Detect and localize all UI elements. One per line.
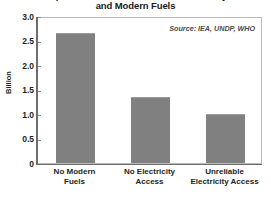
y-axis-tick-mark — [38, 140, 41, 141]
bar-chart: Populations Without Access to Electricit… — [0, 0, 271, 198]
plot-area: Source: IEA, UNDP, WHO — [37, 17, 262, 164]
bar-3 — [206, 114, 245, 163]
bar-2 — [131, 97, 170, 163]
chart-title-line-2: and Modern Fuels — [0, 1, 271, 11]
y-axis-tick-mark — [38, 115, 41, 116]
chart-title: Populations Without Access to Electricit… — [0, 0, 271, 10]
category-label-line: No Modern — [37, 167, 112, 177]
category-label-line: Fuels — [37, 177, 112, 187]
category-label-line: Electricity Access — [187, 177, 262, 187]
y-axis-tick-mark — [38, 42, 41, 43]
y-axis-tick-1-5: 1.5 — [12, 86, 34, 95]
y-axis-tick-0-5: 0.5 — [12, 135, 34, 144]
y-axis-tick-0: 0 — [12, 160, 34, 169]
y-axis-tick-mark — [38, 66, 41, 67]
bar-1 — [56, 33, 95, 163]
category-label-1: No ModernFuels — [37, 167, 112, 186]
source-annotation: Source: IEA, UNDP, WHO — [169, 24, 255, 33]
y-axis-tick-mark — [38, 91, 41, 92]
y-axis-tick-labels: 3.02.52.01.51.00.50 — [0, 0, 34, 198]
y-axis-tick-2-0: 2.0 — [12, 62, 34, 71]
y-axis-tick-1-0: 1.0 — [12, 111, 34, 120]
category-label-line: Access — [112, 177, 187, 187]
category-label-line: No Electricity — [112, 167, 187, 177]
category-label-3: UnreliableElectricity Access — [187, 167, 262, 186]
x-axis-line — [36, 164, 262, 166]
category-label-2: No ElectricityAccess — [112, 167, 187, 186]
y-axis-tick-mark — [38, 17, 41, 18]
category-label-line: Unreliable — [187, 167, 262, 177]
y-axis-tick-3-0: 3.0 — [12, 13, 34, 22]
y-axis-tick-2-5: 2.5 — [12, 37, 34, 46]
x-axis-category-labels: No ModernFuelsNo ElectricityAccessUnreli… — [37, 167, 262, 197]
